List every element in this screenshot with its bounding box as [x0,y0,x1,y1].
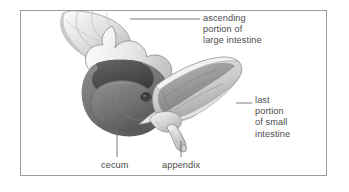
figure-root: ascending portion of large intestine las… [0,0,349,192]
label-line: intestine [255,129,290,140]
label-line: appendix [162,160,200,171]
appendiceal-orifice [141,93,151,102]
label-appendix: appendix [162,160,200,171]
label-ascending-portion-of-large-intestine: ascending portion of large intestine [203,13,262,47]
label-line: last [255,95,290,106]
appendix-shape [167,124,187,152]
label-line: portion of [203,24,262,35]
label-line: ascending [203,13,262,24]
label-line: cecum [101,160,129,171]
label-last-portion-of-small-intestine: last portion of small intestine [255,95,290,140]
label-line: of small [255,117,290,128]
label-line: large intestine [203,35,262,46]
label-cecum: cecum [101,160,129,171]
label-line: portion [255,106,290,117]
